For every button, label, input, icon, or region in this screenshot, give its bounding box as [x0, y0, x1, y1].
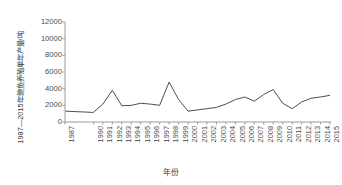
x-tick-label: 2000: [191, 126, 199, 160]
y-tick-label: 2000: [18, 101, 62, 109]
y-tick-label: 10000: [18, 35, 62, 43]
x-tick-label: 2006: [248, 126, 256, 160]
x-tick-label: 2014: [324, 126, 332, 160]
plot-area: [65, 22, 330, 122]
x-tick-label: 2003: [220, 126, 228, 160]
x-tick-label: 2011: [295, 126, 303, 160]
x-tick-label: 2013: [314, 126, 322, 160]
x-tick-label: 2010: [286, 126, 294, 160]
y-tick-label: 0: [18, 118, 62, 126]
x-tick-marks: [65, 122, 330, 125]
x-tick-label: 1992: [116, 126, 124, 160]
x-tick-label: 1987: [68, 126, 76, 160]
x-tick-label: 1998: [172, 126, 180, 160]
x-tick-label: 2001: [201, 126, 209, 160]
x-tick-label: 1990: [97, 126, 105, 160]
y-axis-tick-labels: 020004000600080001000012000: [18, 0, 62, 185]
x-tick-label: 1995: [144, 126, 152, 160]
data-line-svg: [65, 22, 330, 122]
y-tick-label: 4000: [18, 85, 62, 93]
y-tick-label: 12000: [18, 18, 62, 26]
y-tick-label: 6000: [18, 68, 62, 76]
x-tick-label: 2012: [305, 126, 313, 160]
x-tick-label: 2009: [276, 126, 284, 160]
x-tick-label: 2015: [333, 126, 341, 160]
x-tick-label: 1999: [182, 126, 190, 160]
y-tick-label: 8000: [18, 51, 62, 59]
line-chart: 1987—2015年鲍鱼养殖单年产量/吨 0200040006000800010…: [0, 0, 342, 185]
x-tick-label: 2004: [229, 126, 237, 160]
x-tick-label: 1991: [106, 126, 114, 160]
data-series-line: [65, 82, 330, 112]
x-axis-title: 年份: [0, 166, 342, 177]
x-tick-label: 1994: [134, 126, 142, 160]
x-tick-label: 1997: [163, 126, 171, 160]
x-tick-label: 2005: [239, 126, 247, 160]
x-tick-label: 1993: [125, 126, 133, 160]
x-axis-tick-labels: 1987199019911992199319941995199619971998…: [65, 126, 330, 166]
x-tick-label: 2007: [257, 126, 265, 160]
x-tick-label: 2002: [210, 126, 218, 160]
x-tick-label: 2008: [267, 126, 275, 160]
x-tick-label: 1996: [153, 126, 161, 160]
